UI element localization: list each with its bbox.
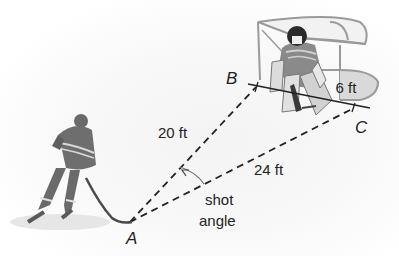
shooter-figure xyxy=(28,114,132,223)
shot-angle-arc xyxy=(180,167,204,184)
point-label-c: C xyxy=(355,118,368,137)
measure-label-ab: 20 ft xyxy=(158,124,188,141)
diagram-canvas: 6 ft A B C xyxy=(0,0,399,256)
measure-label-ac: 24 ft xyxy=(254,161,284,178)
point-label-a: A xyxy=(125,229,137,248)
angle-label-line1: shot xyxy=(205,191,234,208)
hockey-diagram: 6 ft A B C xyxy=(0,0,399,256)
point-label-b: B xyxy=(226,69,237,88)
ice-shadow xyxy=(10,214,110,230)
angle-label-line2: angle xyxy=(199,212,236,229)
measure-label-bc: 6 ft xyxy=(336,79,358,96)
segment-ab xyxy=(130,87,256,222)
